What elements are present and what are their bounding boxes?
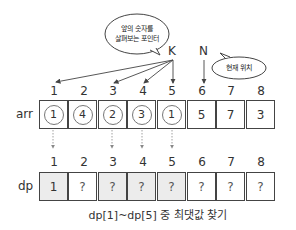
dp-cell: ? bbox=[187, 172, 216, 201]
arr-index: 7 bbox=[216, 84, 246, 98]
n-bubble-text: 현재 위치 bbox=[212, 63, 266, 73]
dp-index: 4 bbox=[128, 155, 158, 169]
dp-label: dp bbox=[18, 179, 33, 193]
k-bubble-line1: 앞의 숫자를 bbox=[105, 24, 169, 34]
caption: dp[1]~dp[5] 중 최댓값 찾기 bbox=[0, 206, 296, 222]
circled-value: 2 bbox=[103, 105, 123, 125]
circled-value: 3 bbox=[132, 105, 152, 125]
arr-index: 8 bbox=[246, 84, 276, 98]
dp-cell: ? bbox=[157, 172, 186, 201]
arr-cell: 5 bbox=[187, 100, 216, 129]
n-pointer-label: N bbox=[199, 44, 208, 58]
arr-index: 1 bbox=[39, 84, 69, 98]
k-bubble-text: 앞의 숫자를 살펴보는 포인터 bbox=[105, 24, 169, 44]
arr-index: 2 bbox=[69, 84, 99, 98]
dp-index: 8 bbox=[246, 155, 276, 169]
dp-cell: ? bbox=[246, 172, 275, 201]
dp-index: 5 bbox=[157, 155, 187, 169]
dp-cell: ? bbox=[98, 172, 127, 201]
circled-value: 1 bbox=[162, 105, 182, 125]
arr-cell: 1 bbox=[39, 100, 68, 129]
arr-cell: 4 bbox=[68, 100, 97, 129]
arr-label: arr bbox=[16, 107, 33, 121]
arr-cell: 2 bbox=[98, 100, 127, 129]
arr-index: 3 bbox=[98, 84, 128, 98]
arr-cell: 1 bbox=[157, 100, 186, 129]
k-bubble-line2: 살펴보는 포인터 bbox=[105, 34, 169, 44]
dp-index: 7 bbox=[216, 155, 246, 169]
arr-index: 4 bbox=[128, 84, 158, 98]
arr-index: 6 bbox=[187, 84, 217, 98]
k-pointer-label: K bbox=[168, 44, 176, 58]
dp-cell: ? bbox=[127, 172, 156, 201]
dp-index: 6 bbox=[187, 155, 217, 169]
arr-cell: 3 bbox=[246, 100, 275, 129]
circled-value: 1 bbox=[44, 105, 64, 125]
dp-cell: 1 bbox=[39, 172, 68, 201]
dp-index: 1 bbox=[39, 155, 69, 169]
arr-cell: 7 bbox=[216, 100, 245, 129]
dp-index: 3 bbox=[98, 155, 128, 169]
arr-index: 5 bbox=[157, 84, 187, 98]
arr-cell: 3 bbox=[127, 100, 156, 129]
circled-value: 4 bbox=[73, 105, 93, 125]
dp-cell: ? bbox=[216, 172, 245, 201]
dp-index: 2 bbox=[69, 155, 99, 169]
dp-cell: ? bbox=[68, 172, 97, 201]
k-pointer-arrows bbox=[56, 60, 173, 83]
